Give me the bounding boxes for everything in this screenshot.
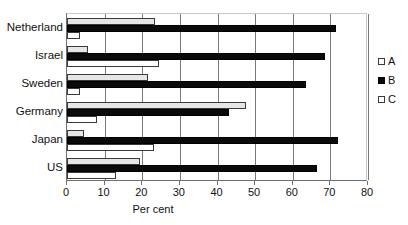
bar-group: [67, 154, 366, 182]
x-axis-title-text: Per cent: [133, 203, 174, 215]
x-tick-mark-0: [66, 181, 67, 185]
x-tick-label-40: 40: [202, 186, 232, 198]
legend-swatch-b-icon: [378, 77, 385, 84]
bar-group: [67, 126, 366, 154]
bar-japan-b: [67, 137, 338, 144]
plot-area: [66, 13, 367, 181]
x-tick-label-80: 80: [352, 186, 382, 198]
legend-item-c[interactable]: C: [378, 90, 408, 109]
x-tick-label-20: 20: [126, 186, 156, 198]
bar-sweden-b: [67, 81, 306, 88]
legend-label-c: C: [388, 94, 396, 105]
gridline-80: [368, 14, 369, 180]
bar-netherland-a: [67, 18, 155, 25]
x-tick-mark-80: [367, 181, 368, 185]
bar-us-c: [67, 172, 116, 179]
x-tick-mark-60: [292, 181, 293, 185]
bar-us-b: [67, 165, 317, 172]
bar-israel-a: [67, 46, 88, 53]
bar-germany-a: [67, 102, 246, 109]
category-label-us: US: [47, 161, 63, 173]
x-tick-mark-10: [104, 181, 105, 185]
x-tick-label-70: 70: [314, 186, 344, 198]
x-tick-mark-50: [254, 181, 255, 185]
x-tick-mark-30: [179, 181, 180, 185]
legend-item-b[interactable]: B: [378, 71, 408, 90]
bar-netherland-c: [67, 32, 80, 39]
chart-legend: ABC: [378, 52, 408, 109]
category-label-sweden: Sweden: [21, 77, 63, 89]
bar-group: [67, 42, 366, 70]
bar-japan-c: [67, 144, 154, 151]
x-tick-label-60: 60: [277, 186, 307, 198]
bar-chart: NetherlandIsraelSwedenGermanyJapanUS 010…: [0, 0, 408, 225]
legend-item-a[interactable]: A: [378, 52, 408, 71]
legend-swatch-c-icon: [378, 96, 385, 103]
x-axis-title: Per cent: [0, 203, 408, 215]
x-tick-label-30: 30: [164, 186, 194, 198]
bar-us-a: [67, 158, 140, 165]
bar-japan-a: [67, 130, 84, 137]
x-tick-mark-70: [329, 181, 330, 185]
category-label-netherland: Netherland: [7, 21, 63, 33]
category-label-israel: Israel: [35, 49, 63, 61]
bar-germany-c: [67, 116, 97, 123]
bar-sweden-a: [67, 74, 148, 81]
bar-israel-c: [67, 60, 159, 67]
bar-germany-b: [67, 109, 229, 116]
bar-group: [67, 14, 366, 42]
category-label-germany: Germany: [16, 105, 63, 117]
legend-swatch-a-icon: [378, 58, 385, 65]
bar-group: [67, 70, 366, 98]
category-label-japan: Japan: [32, 133, 63, 145]
legend-label-b: B: [388, 75, 395, 86]
x-tick-label-0: 0: [51, 186, 81, 198]
bar-netherland-b: [67, 25, 336, 32]
bar-sweden-c: [67, 88, 80, 95]
x-tick-label-50: 50: [239, 186, 269, 198]
x-tick-label-10: 10: [89, 186, 119, 198]
x-tick-mark-40: [217, 181, 218, 185]
legend-label-a: A: [388, 56, 395, 67]
bar-group: [67, 98, 366, 126]
x-tick-mark-20: [141, 181, 142, 185]
bar-israel-b: [67, 53, 325, 60]
